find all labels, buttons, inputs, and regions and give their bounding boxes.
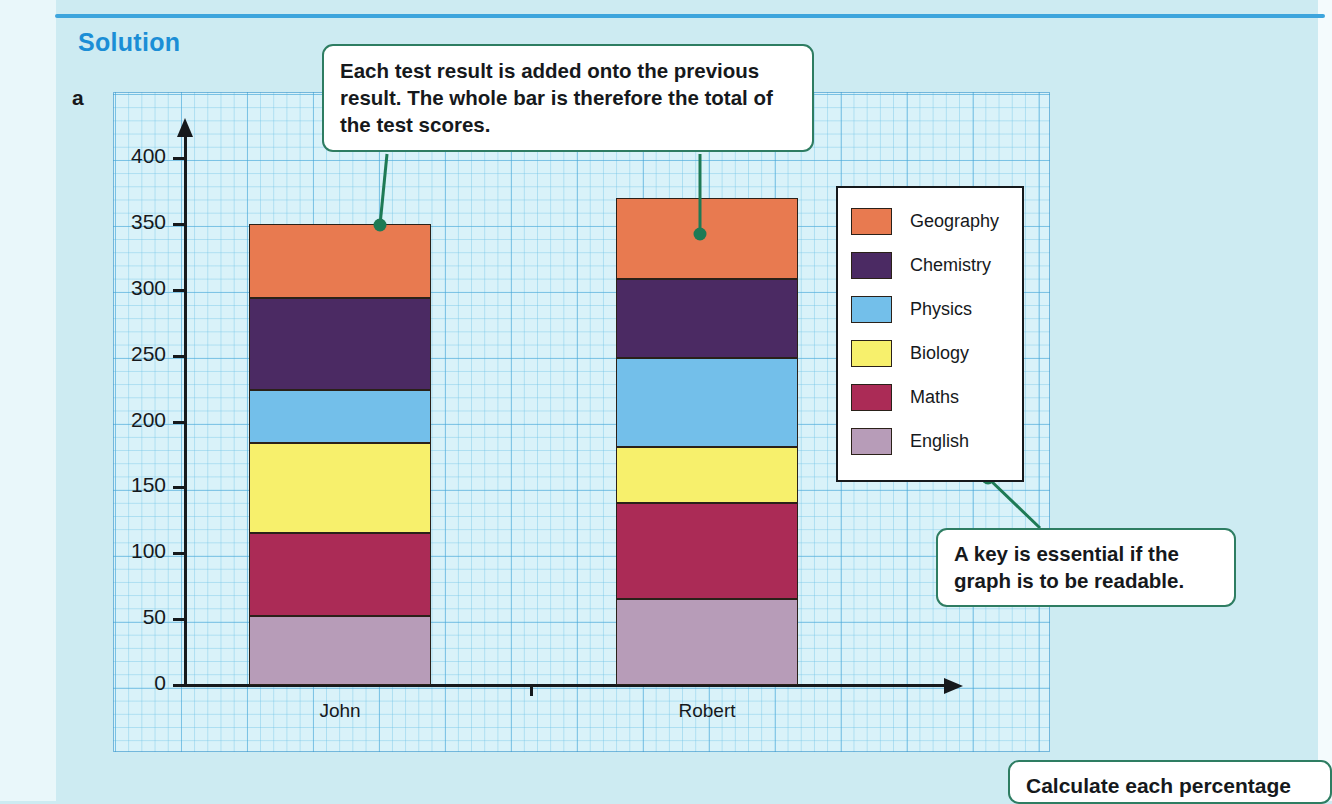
chart-legend: GeographyChemistryPhysicsBiologyMathsEng… xyxy=(836,186,1024,482)
legend-swatch xyxy=(851,428,892,455)
callout-stacked-explanation: Each test result is added onto the previ… xyxy=(322,44,814,152)
legend-label: English xyxy=(910,431,969,452)
legend-swatch xyxy=(851,340,892,367)
legend-item-english: English xyxy=(838,419,1022,463)
legend-item-physics: Physics xyxy=(838,287,1022,331)
legend-label: Geography xyxy=(910,211,999,232)
legend-label: Chemistry xyxy=(910,255,991,276)
legend-label: Maths xyxy=(910,387,959,408)
legend-swatch xyxy=(851,384,892,411)
callout-key-explanation: A key is essential if the graph is to be… xyxy=(936,528,1236,607)
page-left-margin xyxy=(0,0,56,801)
callout-percentage-note: Calculate each percentage xyxy=(1008,760,1332,804)
page-right-margin xyxy=(1318,0,1332,801)
legend-swatch xyxy=(851,208,892,235)
part-label: a xyxy=(72,86,84,110)
legend-item-geography: Geography xyxy=(838,199,1022,243)
page-header-rule xyxy=(55,14,1325,18)
legend-swatch xyxy=(851,252,892,279)
legend-item-biology: Biology xyxy=(838,331,1022,375)
legend-label: Physics xyxy=(910,299,972,320)
legend-item-maths: Maths xyxy=(838,375,1022,419)
legend-item-chemistry: Chemistry xyxy=(838,243,1022,287)
legend-swatch xyxy=(851,296,892,323)
legend-label: Biology xyxy=(910,343,969,364)
section-title: Solution xyxy=(78,28,180,57)
